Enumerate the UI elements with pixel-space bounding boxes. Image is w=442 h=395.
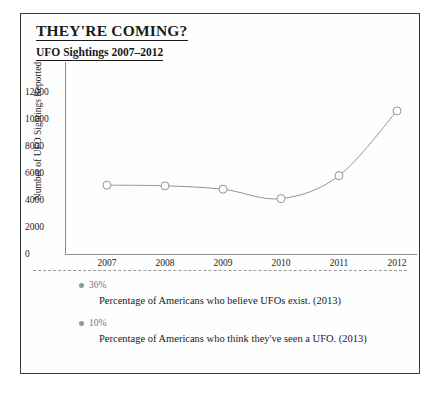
y-axis-ticks: 120001000080006000400020000 — [23, 62, 65, 272]
x-tick-label: 2011 — [330, 258, 349, 268]
data-point-marker — [335, 172, 343, 180]
x-tick-label: 2009 — [214, 258, 233, 268]
stat-header: 10% — [79, 318, 409, 329]
data-point-marker — [277, 195, 285, 203]
data-point-marker — [103, 181, 111, 189]
stat-block: 10%Percentage of Americans who think the… — [79, 318, 409, 345]
stat-value: 10% — [89, 318, 106, 329]
data-point-marker — [161, 182, 169, 190]
bullet-icon — [79, 283, 84, 288]
stat-value: 36% — [89, 280, 106, 291]
line-chart: Number of UFO Sightings Reported 1200010… — [21, 62, 419, 272]
x-tick-label: 2012 — [388, 258, 407, 268]
data-point-marker — [219, 185, 227, 193]
y-tick-label: 12000 — [25, 87, 65, 97]
y-tick-label: 8000 — [25, 141, 65, 151]
stat-description: Percentage of Americans who think they'v… — [99, 332, 389, 345]
series-line — [107, 111, 397, 199]
y-tick-label: 6000 — [25, 168, 65, 178]
plot-area: 200720082009201020112012 — [65, 62, 417, 262]
data-point-marker — [393, 107, 401, 115]
y-tick-label: 4000 — [25, 195, 65, 205]
section-divider — [33, 270, 407, 271]
stats-list: 36%Percentage of Americans who believe U… — [79, 280, 409, 356]
x-tick-label: 2008 — [156, 258, 175, 268]
y-tick-label: 2000 — [25, 222, 65, 232]
chart-card: THEY'RE COMING? UFO Sightings 2007–2012 … — [20, 13, 420, 374]
x-tick-label: 2010 — [272, 258, 291, 268]
series-svg — [65, 62, 417, 262]
page-title: THEY'RE COMING? — [36, 22, 188, 41]
x-tick-label: 2007 — [98, 258, 117, 268]
stat-block: 36%Percentage of Americans who believe U… — [79, 280, 409, 307]
chart-subtitle: UFO Sightings 2007–2012 — [36, 46, 163, 61]
bullet-icon — [79, 321, 84, 326]
stat-header: 36% — [79, 280, 409, 291]
y-tick-label: 10000 — [25, 114, 65, 124]
stat-description: Percentage of Americans who believe UFOs… — [99, 294, 389, 307]
y-tick-label: 0 — [25, 249, 65, 259]
